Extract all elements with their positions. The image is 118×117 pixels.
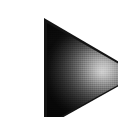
upper-edge-shadow	[47, 23, 118, 117]
image-canvas: Shaded triangle	[0, 0, 118, 117]
triangle-figure	[44, 18, 118, 117]
noise-texture-overlay	[47, 23, 118, 117]
triangle-shaded-face	[47, 23, 118, 117]
lower-left-shadow	[47, 23, 118, 117]
